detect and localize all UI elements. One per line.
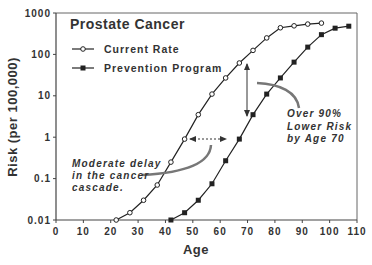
data-point: [251, 112, 256, 117]
data-point: [346, 24, 351, 29]
x-tick-label: 100: [320, 226, 340, 237]
data-point: [128, 210, 133, 215]
annotation-lower-risk: Over 90% Lower Risk by Age 70: [287, 108, 352, 144]
x-tick-label: 20: [104, 226, 117, 237]
x-tick-label: 10: [77, 226, 90, 237]
svg-text:Moderate delay: Moderate delay: [72, 158, 162, 169]
open-circle-marker-icon: [81, 47, 86, 52]
data-point: [292, 60, 297, 65]
data-point: [333, 26, 338, 31]
legend-item-current-rate: Current Rate: [72, 43, 180, 55]
data-point: [182, 210, 187, 215]
chart-canvas: 0.010.11101001000 0102030405060708090100…: [0, 0, 372, 265]
data-point: [264, 36, 269, 41]
y-tick-label: 10: [38, 90, 51, 101]
y-axis-title: Risk (per 100,000): [5, 57, 20, 177]
data-point: [168, 218, 173, 223]
y-tick-label: 1000: [25, 8, 51, 19]
data-point: [155, 183, 160, 188]
data-point: [292, 24, 297, 29]
data-point: [114, 218, 119, 223]
x-tick-label: 110: [347, 226, 366, 237]
data-point: [209, 181, 214, 186]
data-point: [264, 92, 269, 97]
data-point: [305, 45, 310, 50]
svg-text:in the cancer: in the cancer: [72, 170, 149, 181]
y-axis-ticks: 0.010.11101001000: [25, 8, 56, 226]
y-tick-label: 0.01: [28, 215, 51, 226]
data-point: [196, 112, 201, 117]
x-axis-title: Age: [183, 242, 209, 257]
data-point: [210, 92, 215, 97]
svg-text:Over 90%: Over 90%: [287, 108, 342, 119]
data-point: [237, 137, 242, 142]
svg-text:Lower Risk: Lower Risk: [287, 121, 352, 132]
data-point: [305, 22, 310, 27]
legend-item-prevention-program: Prevention Program: [72, 62, 222, 74]
x-tick-label: 0: [53, 226, 60, 237]
legend-label-prevention-program: Prevention Program: [104, 62, 222, 74]
data-point: [278, 25, 283, 30]
annotation-moderate-delay: Moderate delay in the cancer cascade.: [72, 158, 162, 193]
x-tick-label: 30: [132, 226, 145, 237]
legend-label-current-rate: Current Rate: [104, 43, 180, 55]
data-point: [251, 48, 256, 53]
data-point: [196, 198, 201, 203]
data-point: [278, 75, 283, 80]
filled-square-marker-icon: [81, 66, 86, 71]
x-axis-ticks: 0102030405060708090100110: [53, 220, 367, 237]
y-tick-label: 100: [31, 49, 51, 60]
x-tick-label: 70: [241, 226, 254, 237]
svg-text:by Age 70: by Age 70: [287, 133, 345, 144]
x-tick-label: 60: [214, 226, 227, 237]
x-tick-label: 80: [268, 226, 281, 237]
data-point: [182, 137, 187, 142]
svg-text:cascade.: cascade.: [72, 182, 124, 193]
legend: Current Rate Prevention Program: [72, 43, 222, 74]
risk-pointer-curve: [257, 83, 299, 108]
data-point: [237, 61, 242, 66]
data-point: [141, 198, 146, 203]
data-point: [223, 158, 228, 163]
y-tick-label: 0.1: [34, 173, 51, 184]
x-tick-label: 50: [186, 226, 199, 237]
data-point: [319, 21, 324, 26]
data-point: [319, 32, 324, 37]
x-tick-label: 90: [296, 226, 309, 237]
chart-title: Prostate Cancer: [70, 16, 185, 32]
x-tick-label: 40: [159, 226, 172, 237]
data-point: [223, 76, 228, 81]
data-point: [169, 160, 174, 165]
y-tick-label: 1: [44, 132, 51, 143]
